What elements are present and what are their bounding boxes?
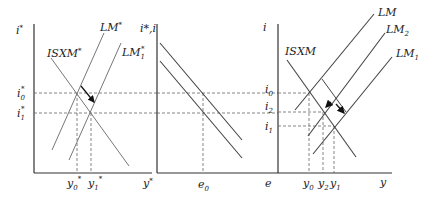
lm-label: LM <box>377 6 397 19</box>
panel-home: i ISXM LM LM2 LM1 i0 i2 i1 y0 y2 y1 y <box>263 6 419 192</box>
lower-parity-line <box>160 61 242 158</box>
p3-x-axis-label: y <box>379 176 387 189</box>
p3-y-axis-label: i <box>263 21 267 34</box>
i1-star-label: i1* <box>17 105 25 122</box>
lm1-label: LM1 <box>395 47 419 62</box>
i2-label: i2 <box>265 100 274 115</box>
isxm-label: ISXM <box>284 45 317 58</box>
three-panel-diagram: i* ISXM* LM* LM1* i0* i1* y0* y1* y* i*,… <box>0 0 434 199</box>
i0-star-label: i0* <box>17 85 26 102</box>
lm2-curve <box>308 33 385 136</box>
p1-y-axis-label: i* <box>16 24 24 37</box>
isxm-curve <box>287 60 356 157</box>
shift-arrow-right-icon <box>336 104 344 113</box>
lm1-star-label: LM1* <box>121 45 145 61</box>
p1-x-axis-label: y* <box>142 177 153 190</box>
upper-parity-line <box>160 43 242 140</box>
y1-star-label: y1* <box>87 175 103 192</box>
panel-exchange: i*,i e0 e <box>140 22 278 193</box>
p2-y-axis-label: i*,i <box>140 22 156 35</box>
connector-line <box>322 79 346 112</box>
lm2-label: LM2 <box>385 23 410 38</box>
panel-foreign: i* ISXM* LM* LM1* i0* i1* y0* y1* y* <box>16 21 157 192</box>
lm1-curve <box>313 57 392 154</box>
e0-label: e0 <box>198 178 210 193</box>
lm1-star-curve <box>69 43 121 160</box>
y0-star-label: y0* <box>66 175 82 192</box>
y0-label: y0 <box>302 177 314 192</box>
isxm-star-label: ISXM* <box>46 47 82 60</box>
lm-star-label: LM* <box>99 21 123 34</box>
y1-label: y1 <box>329 177 341 192</box>
shift-arrow-icon <box>81 86 94 102</box>
i0-label: i0 <box>265 83 274 98</box>
p2-x-axis-label: e <box>265 177 272 190</box>
y2-label: y2 <box>317 177 329 192</box>
i1-label: i1 <box>265 120 273 135</box>
